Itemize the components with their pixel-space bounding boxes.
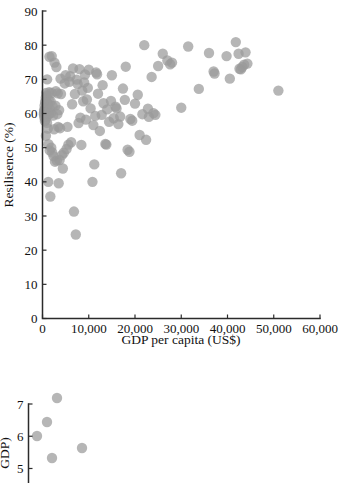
scatter-point [204, 48, 214, 58]
x-tick-label: 50,000 [256, 321, 292, 336]
scatter-point [124, 147, 134, 157]
main-scatter-svg: 0102030405060708090 010,00020,00030,0004… [0, 0, 339, 360]
secondary-scatter-point [32, 431, 42, 441]
secondary-scatter-point [42, 417, 52, 427]
scatter-point [242, 58, 252, 68]
scatter-point [121, 61, 131, 71]
secondary-axes: 567 [17, 397, 33, 483]
scatter-point [139, 40, 149, 50]
scatter-point [87, 177, 97, 187]
y-tick-label: 0 [31, 311, 38, 326]
secondary-scatter-point [52, 393, 62, 403]
secondary-scatter-points-group [32, 393, 87, 463]
scatter-point [107, 70, 117, 80]
secondary-y-axis-ticks: 567 [17, 397, 33, 476]
scatter-point [69, 206, 79, 216]
secondary-scatter-point [47, 453, 57, 463]
figure-container: 0102030405060708090 010,00020,00030,0004… [0, 0, 339, 483]
scatter-point [101, 139, 111, 149]
scatter-point [240, 47, 250, 57]
scatter-point [76, 140, 86, 150]
scatter-point [118, 83, 128, 93]
resilience-vs-gdp-chart: 0102030405060708090 010,00020,00030,0004… [0, 0, 339, 360]
scatter-point [130, 98, 140, 108]
scatter-point [127, 115, 137, 125]
secondary-y-tick-label: 5 [17, 461, 24, 476]
y-tick-label: 10 [25, 277, 38, 292]
scatter-point [120, 95, 130, 105]
scatter-point [58, 163, 68, 173]
scatter-point [221, 51, 231, 61]
gdp-secondary-chart: 567 GDP) [0, 360, 339, 483]
scatter-point [150, 110, 160, 120]
x-tick-label: 60,000 [302, 321, 338, 336]
scatter-point [83, 83, 93, 93]
scatter-point [209, 68, 219, 78]
y-tick-label: 90 [25, 4, 38, 19]
axis-lines [43, 11, 321, 319]
scatter-points-group [39, 37, 284, 240]
y-tick-label: 20 [25, 243, 38, 258]
scatter-point [53, 178, 63, 188]
scatter-point [141, 135, 151, 145]
y-tick-label: 40 [25, 174, 38, 189]
scatter-point [225, 73, 235, 83]
y-tick-label: 50 [25, 140, 38, 155]
scatter-point [115, 111, 125, 121]
scatter-point [153, 61, 163, 71]
y-tick-label: 60 [25, 106, 38, 121]
scatter-point [62, 122, 72, 132]
scatter-point [231, 37, 241, 47]
secondary-y-axis-title: GDP) [0, 437, 12, 469]
scatter-point [176, 102, 186, 112]
secondary-scatter-svg: 567 GDP) [0, 360, 339, 483]
scatter-point [82, 94, 92, 104]
y-tick-label: 80 [25, 38, 38, 53]
scatter-point [92, 69, 102, 79]
y-tick-label: 70 [25, 72, 38, 87]
scatter-point [97, 80, 107, 90]
secondary-y-tick-label: 7 [17, 397, 24, 412]
y-tick-label: 30 [25, 209, 38, 224]
main-axes: 0102030405060708090 010,00020,00030,0004… [25, 4, 338, 336]
y-axis-title: Resilisence (%) [1, 122, 16, 207]
secondary-y-tick-label: 6 [17, 429, 24, 444]
scatter-point [273, 85, 283, 95]
scatter-point [194, 84, 204, 94]
scatter-point [116, 168, 126, 178]
scatter-point [45, 191, 55, 201]
main-plot-area [39, 37, 284, 240]
scatter-point [89, 159, 99, 169]
scatter-point [183, 41, 193, 51]
scatter-point [54, 105, 64, 115]
x-axis-title: GDP per capita (US$) [121, 332, 240, 347]
x-tick-label: 0 [39, 321, 46, 336]
scatter-point [133, 90, 143, 100]
scatter-point [146, 72, 156, 82]
scatter-point [56, 89, 66, 99]
scatter-point [66, 137, 76, 147]
scatter-point [51, 62, 61, 72]
scatter-point [167, 57, 177, 67]
scatter-point [95, 126, 105, 136]
scatter-point [67, 99, 77, 109]
x-tick-label: 10,000 [71, 321, 107, 336]
scatter-point [71, 229, 81, 239]
secondary-scatter-point [77, 443, 87, 453]
